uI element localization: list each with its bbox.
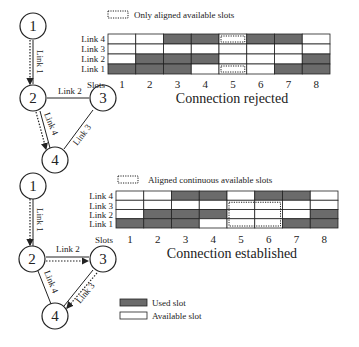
node-4: 4 xyxy=(42,147,68,173)
slot-cell xyxy=(108,34,136,44)
slot-cell xyxy=(108,44,136,54)
svg-text:Link 1: Link 1 xyxy=(81,64,105,74)
top-link-labels: Link 4 Link 3 Link 2 Link 1 Slots xyxy=(81,34,105,90)
slot-cell xyxy=(144,200,172,209)
slot-cell xyxy=(116,219,144,228)
slot-cell xyxy=(310,191,338,200)
slot-cell xyxy=(191,54,219,64)
slot-number: 7 xyxy=(294,233,300,245)
slot-cell xyxy=(191,44,219,54)
bottom-link-labels: Link 4 Link 3 Link 2 Link 1 Slots xyxy=(89,191,113,245)
slot-cell xyxy=(302,64,330,74)
slot-cell xyxy=(310,210,338,219)
slot-number: 8 xyxy=(313,78,319,90)
slot-cell xyxy=(199,191,227,200)
slot-cell xyxy=(247,64,275,74)
slot-cell xyxy=(275,44,303,54)
available-slot-swatch xyxy=(120,312,147,319)
slot-cell xyxy=(116,210,144,219)
bottom-title: Connection established xyxy=(167,246,297,261)
bottom-slot-grid xyxy=(116,191,338,228)
slot-cell xyxy=(247,34,275,44)
slot-cell xyxy=(172,219,200,228)
slot-cell xyxy=(164,54,192,64)
top-slot-grid xyxy=(108,34,330,74)
slot-cell xyxy=(275,64,303,74)
svg-text:Only aligned available slots: Only aligned available slots xyxy=(134,10,235,20)
slot-cell xyxy=(283,219,311,228)
slot-cell xyxy=(164,64,192,74)
top-title: Connection rejected xyxy=(176,91,288,106)
slot-number: 3 xyxy=(183,233,189,245)
slot-number: 1 xyxy=(119,78,125,90)
svg-text:2: 2 xyxy=(28,251,36,267)
slot-cell xyxy=(199,210,227,219)
slot-number: 2 xyxy=(155,233,161,245)
slot-cell xyxy=(283,210,311,219)
slot-cell xyxy=(219,54,247,64)
svg-text:Slots: Slots xyxy=(87,80,106,90)
slot-cell xyxy=(302,34,330,44)
bottom-legend: Aligned continuous available slots xyxy=(118,175,273,185)
slot-number: 3 xyxy=(175,78,181,90)
slot-cell xyxy=(144,191,172,200)
svg-text:Link 3: Link 3 xyxy=(81,44,105,54)
slot-cell xyxy=(172,191,200,200)
slot-cell xyxy=(302,54,330,64)
slot-cell xyxy=(191,34,219,44)
edge-label-link3: Link 3 xyxy=(74,280,97,305)
svg-text:4: 4 xyxy=(51,152,59,168)
slot-cell xyxy=(136,64,164,74)
slot-cell xyxy=(255,191,283,200)
slot-cell xyxy=(136,44,164,54)
slot-cell xyxy=(255,200,283,209)
svg-text:Link 4: Link 4 xyxy=(81,34,105,44)
slot-cell xyxy=(227,191,255,200)
svg-text:4: 4 xyxy=(51,308,59,324)
slot-cell xyxy=(275,34,303,44)
slot-cell xyxy=(172,200,200,209)
slot-cell xyxy=(199,200,227,209)
slot-cell xyxy=(116,200,144,209)
svg-text:3: 3 xyxy=(99,90,107,106)
slot-cell xyxy=(144,219,172,228)
svg-text:Link 4: Link 4 xyxy=(89,191,113,201)
diagram-canvas: 1 2 3 4 Link 1 Link 2 Link 3 Link 4 Only… xyxy=(0,0,359,347)
slot-number: 4 xyxy=(202,78,208,90)
svg-text:2: 2 xyxy=(29,90,37,106)
edge-label-link1: Link 1 xyxy=(35,50,45,74)
slot-cell xyxy=(136,54,164,64)
slot-cell xyxy=(275,54,303,64)
node-1: 1 xyxy=(20,13,46,39)
edge-label-link4: Link 4 xyxy=(42,269,60,295)
slot-cell xyxy=(255,219,283,228)
slot-cell xyxy=(227,200,255,209)
slot-cell xyxy=(144,210,172,219)
svg-text:Slots: Slots xyxy=(95,235,114,245)
slot-cell xyxy=(283,200,311,209)
slot-number: 4 xyxy=(210,233,216,245)
top-slot-numbers: 12345678 xyxy=(119,78,319,90)
bottom-slot-numbers: 12345678 xyxy=(127,233,327,245)
slot-cell xyxy=(247,44,275,54)
slot-cell xyxy=(255,210,283,219)
slot-cell xyxy=(302,44,330,54)
edge-label-link4: Link 4 xyxy=(42,111,60,137)
slot-cell xyxy=(108,54,136,64)
node-3: 3 xyxy=(90,246,116,272)
slot-cell xyxy=(227,219,255,228)
slot-number: 7 xyxy=(286,78,292,90)
slot-cell xyxy=(172,210,200,219)
slot-cell xyxy=(227,210,255,219)
used-slot-swatch xyxy=(120,299,147,306)
slot-number: 5 xyxy=(238,233,244,245)
svg-text:Aligned continuous available s: Aligned continuous available slots xyxy=(148,175,273,185)
slot-cell xyxy=(164,34,192,44)
svg-text:1: 1 xyxy=(29,178,37,194)
slot-cell xyxy=(219,44,247,54)
svg-text:Link 1: Link 1 xyxy=(89,219,113,229)
slot-cell xyxy=(283,191,311,200)
edge-label-link2: Link 2 xyxy=(58,86,82,96)
slot-number: 6 xyxy=(258,78,264,90)
available-slot-label: Available slot xyxy=(152,311,202,321)
